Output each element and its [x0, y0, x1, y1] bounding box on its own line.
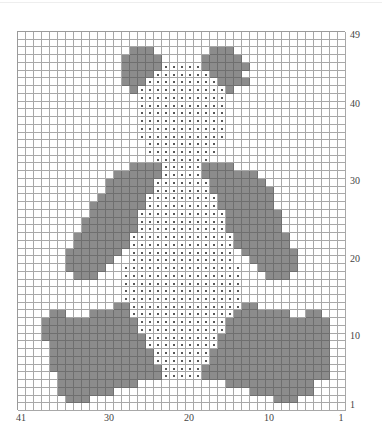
- grey-stitch-cell: [274, 396, 282, 404]
- dot-stitch-cell: [130, 303, 138, 311]
- grey-stitch-cell: [258, 241, 266, 249]
- empty-stitch-cell: [66, 280, 74, 288]
- empty-stitch-cell: [74, 156, 82, 164]
- empty-stitch-cell: [314, 187, 322, 195]
- dot-stitch-cell: [170, 233, 178, 241]
- empty-stitch-cell: [218, 40, 226, 48]
- empty-stitch-cell: [250, 148, 258, 156]
- empty-stitch-cell: [202, 396, 210, 404]
- empty-stitch-cell: [18, 372, 26, 380]
- empty-stitch-cell: [242, 94, 250, 102]
- grey-stitch-cell: [234, 202, 242, 210]
- empty-stitch-cell: [338, 94, 346, 102]
- empty-stitch-cell: [74, 55, 82, 63]
- empty-stitch-cell: [338, 71, 346, 79]
- empty-stitch-cell: [338, 194, 346, 202]
- empty-stitch-cell: [258, 171, 266, 179]
- empty-stitch-cell: [330, 40, 338, 48]
- empty-stitch-cell: [338, 218, 346, 226]
- grey-stitch-cell: [226, 334, 234, 342]
- grey-stitch-cell: [82, 380, 90, 388]
- dot-stitch-cell: [210, 295, 218, 303]
- empty-stitch-cell: [82, 295, 90, 303]
- dot-stitch-cell: [210, 218, 218, 226]
- dot-stitch-cell: [154, 272, 162, 280]
- dot-stitch-cell: [162, 303, 170, 311]
- empty-stitch-cell: [18, 125, 26, 133]
- grey-stitch-cell: [266, 187, 274, 195]
- empty-stitch-cell: [314, 210, 322, 218]
- grey-stitch-cell: [146, 47, 154, 55]
- empty-stitch-cell: [306, 287, 314, 295]
- dot-stitch-cell: [194, 140, 202, 148]
- dot-stitch-cell: [202, 218, 210, 226]
- grey-stitch-cell: [90, 202, 98, 210]
- grey-stitch-cell: [106, 334, 114, 342]
- grey-stitch-cell: [106, 326, 114, 334]
- empty-stitch-cell: [298, 94, 306, 102]
- empty-stitch-cell: [242, 272, 250, 280]
- empty-stitch-cell: [178, 47, 186, 55]
- empty-stitch-cell: [242, 133, 250, 141]
- empty-stitch-cell: [106, 63, 114, 71]
- dot-stitch-cell: [194, 94, 202, 102]
- empty-stitch-cell: [18, 78, 26, 86]
- empty-stitch-cell: [58, 194, 66, 202]
- empty-stitch-cell: [74, 171, 82, 179]
- empty-stitch-cell: [298, 71, 306, 79]
- dot-stitch-cell: [130, 272, 138, 280]
- grey-stitch-cell: [234, 233, 242, 241]
- empty-stitch-cell: [82, 102, 90, 110]
- empty-stitch-cell: [26, 171, 34, 179]
- empty-stitch-cell: [82, 55, 90, 63]
- grey-stitch-cell: [274, 272, 282, 280]
- empty-stitch-cell: [34, 287, 42, 295]
- grey-stitch-cell: [242, 318, 250, 326]
- dot-stitch-cell: [210, 102, 218, 110]
- empty-stitch-cell: [18, 109, 26, 117]
- empty-stitch-cell: [50, 55, 58, 63]
- empty-stitch-cell: [74, 102, 82, 110]
- empty-stitch-cell: [266, 396, 274, 404]
- dot-stitch-cell: [146, 341, 154, 349]
- grey-stitch-cell: [218, 163, 226, 171]
- empty-stitch-cell: [266, 156, 274, 164]
- dot-stitch-cell: [170, 171, 178, 179]
- grey-stitch-cell: [218, 341, 226, 349]
- empty-stitch-cell: [322, 396, 330, 404]
- empty-stitch-cell: [34, 148, 42, 156]
- empty-stitch-cell: [42, 241, 50, 249]
- empty-stitch-cell: [338, 63, 346, 71]
- empty-stitch-cell: [258, 295, 266, 303]
- empty-stitch-cell: [50, 210, 58, 218]
- empty-stitch-cell: [202, 32, 210, 40]
- grey-stitch-cell: [90, 334, 98, 342]
- empty-stitch-cell: [50, 233, 58, 241]
- empty-stitch-cell: [298, 310, 306, 318]
- grey-stitch-cell: [290, 365, 298, 373]
- dot-stitch-cell: [162, 117, 170, 125]
- empty-stitch-cell: [50, 295, 58, 303]
- grey-stitch-cell: [90, 210, 98, 218]
- grey-stitch-cell: [282, 349, 290, 357]
- empty-stitch-cell: [98, 303, 106, 311]
- grey-stitch-cell: [306, 380, 314, 388]
- empty-stitch-cell: [298, 171, 306, 179]
- empty-stitch-cell: [42, 349, 50, 357]
- empty-stitch-cell: [114, 32, 122, 40]
- dot-stitch-cell: [162, 233, 170, 241]
- dot-stitch-cell: [218, 109, 226, 117]
- empty-stitch-cell: [82, 63, 90, 71]
- grey-stitch-cell: [314, 334, 322, 342]
- empty-stitch-cell: [138, 32, 146, 40]
- grey-stitch-cell: [290, 357, 298, 365]
- empty-stitch-cell: [306, 233, 314, 241]
- dot-stitch-cell: [186, 171, 194, 179]
- empty-stitch-cell: [274, 71, 282, 79]
- dot-stitch-cell: [178, 295, 186, 303]
- empty-stitch-cell: [290, 202, 298, 210]
- empty-stitch-cell: [290, 171, 298, 179]
- grey-stitch-cell: [226, 218, 234, 226]
- grey-stitch-cell: [274, 256, 282, 264]
- grey-stitch-cell: [322, 365, 330, 373]
